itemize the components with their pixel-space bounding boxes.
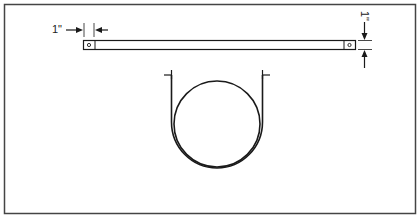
pipe-circle (174, 81, 260, 167)
mounting-bar (84, 41, 356, 50)
horizontal-dimension: 1" (52, 23, 108, 37)
vertical-dimension-label: 1" (359, 11, 371, 21)
vertical-dimension: 1" (358, 11, 372, 68)
arrow-down-icon (362, 33, 368, 40)
arrow-right-icon (76, 27, 83, 33)
horizontal-dimension-label: 1" (52, 23, 62, 35)
drawing-frame (5, 5, 416, 214)
diagram-canvas: 1" 1" (0, 0, 420, 220)
strap-loop (164, 70, 270, 168)
